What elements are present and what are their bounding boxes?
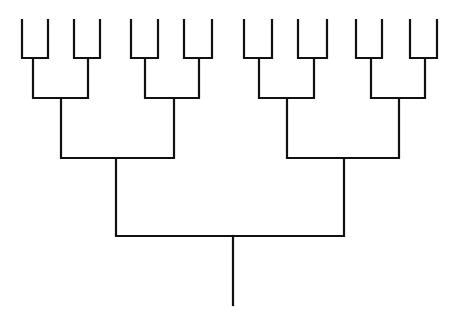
- leaf-pair-bracket: [131, 20, 158, 58]
- level2-bracket: [259, 58, 314, 98]
- level4-bracket: [116, 158, 344, 236]
- leaf-pair-bracket: [244, 20, 272, 58]
- leaf-pair-bracket: [74, 20, 100, 58]
- bracket-tree: [0, 0, 461, 320]
- level2-bracket: [145, 58, 199, 98]
- leaf-pair-bracket: [410, 20, 437, 58]
- tree-diagram: [0, 0, 461, 320]
- level3-bracket: [61, 98, 174, 158]
- leaf-pair-bracket: [298, 20, 327, 58]
- leaf-pair-bracket: [22, 20, 48, 58]
- level3-bracket: [287, 98, 399, 158]
- leaf-pair-bracket: [184, 20, 212, 58]
- level2-bracket: [371, 58, 425, 98]
- level2-bracket: [33, 58, 88, 98]
- leaf-pair-bracket: [356, 20, 382, 58]
